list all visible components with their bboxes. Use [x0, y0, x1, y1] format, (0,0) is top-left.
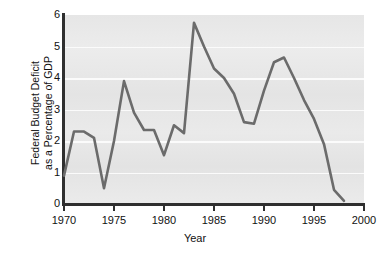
gridline-5 — [64, 47, 364, 49]
x-tick-mark-1975 — [113, 204, 115, 211]
x-tick-mark-1985 — [213, 204, 215, 211]
x-tick-mark-2000 — [363, 204, 365, 211]
x-tick-1980: 1980 — [141, 214, 187, 227]
x-tick-mark-1980 — [163, 204, 165, 211]
y-axis-spine — [62, 13, 65, 206]
x-tick-1975: 1975 — [91, 214, 137, 227]
x-tick-1970: 1970 — [41, 214, 87, 227]
x-tick-1990: 1990 — [241, 214, 287, 227]
gridline-2 — [64, 141, 364, 143]
x-tick-mark-1995 — [313, 204, 315, 211]
plot-area — [64, 15, 364, 204]
x-axis-title: Year — [0, 232, 390, 244]
x-tick-mark-1990 — [263, 204, 265, 211]
x-tick-1995: 1995 — [291, 214, 337, 227]
y-axis-title-line1: Federal Budget Deficit — [29, 23, 42, 203]
gridline-1 — [64, 173, 364, 175]
x-tick-mark-1970 — [63, 204, 65, 211]
x-tick-2000: 2000 — [341, 214, 387, 227]
y-axis-title: Federal Budget Deficit as a Percentage o… — [29, 23, 55, 203]
gridline-4 — [64, 78, 364, 80]
chart-figure: 6 5 4 3 2 1 0 1970 1975 1980 1985 1990 1… — [0, 0, 390, 254]
gridline-3 — [64, 110, 364, 112]
y-axis-title-line2: as a Percentage of GDP — [42, 23, 55, 203]
x-tick-1985: 1985 — [191, 214, 237, 227]
